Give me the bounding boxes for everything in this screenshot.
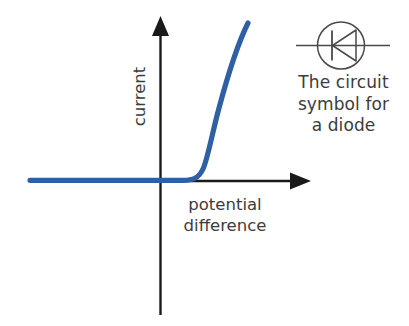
caption-line-3: a diode: [278, 115, 409, 137]
diode-iv-figure: current potential difference The circuit…: [0, 0, 409, 326]
figure-canvas: [0, 0, 409, 326]
x-axis-label-line-2: difference: [165, 215, 285, 236]
x-axis-label: potential difference: [165, 194, 285, 236]
diode-symbol-caption: The circuit symbol for a diode: [278, 72, 409, 137]
caption-line-1: The circuit: [278, 72, 409, 94]
y-axis-arrowhead: [152, 16, 169, 36]
x-axis-arrowhead: [290, 173, 311, 190]
caption-line-2: symbol for: [278, 94, 409, 116]
y-axis-label: current: [129, 62, 150, 132]
x-axis-label-line-1: potential: [165, 194, 285, 215]
